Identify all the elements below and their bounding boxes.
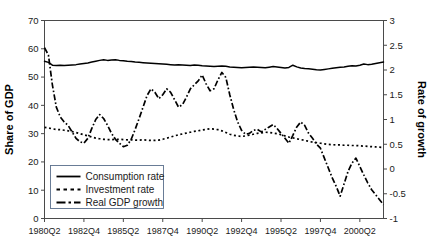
y-axis-tick-label: 30 xyxy=(28,128,39,139)
chart-container: 010203040506070-1-0.500.511.522.531980Q2… xyxy=(0,0,431,248)
y-axis-title: Share of GDP xyxy=(3,84,15,155)
x-axis-tick-label: 1995Q2 xyxy=(265,226,297,236)
x-axis-tick-label: 1982Q4 xyxy=(68,226,100,236)
y-axis-tick-label: 40 xyxy=(28,100,39,111)
legend-label-real-gdp-growth: Real GDP growth xyxy=(86,197,164,208)
y2-axis-tick-label: 0.5 xyxy=(390,139,403,150)
y2-axis-tick-label: 1 xyxy=(390,114,395,125)
y2-axis-tick-label: 1.5 xyxy=(390,89,403,100)
x-axis-tick-label: 2000Q2 xyxy=(344,226,376,236)
y2-axis-tick-label: 2.5 xyxy=(390,40,403,51)
series-line-investment-rate xyxy=(45,127,384,147)
x-axis-tick-label: 1997Q4 xyxy=(304,226,336,236)
y2-axis-tick-label: 0 xyxy=(390,163,395,174)
y2-axis-tick-label: -1 xyxy=(390,213,398,224)
y2-axis-tick-label: 2 xyxy=(390,64,395,75)
y2-axis-tick-label: 3 xyxy=(390,15,395,26)
y-axis-tick-label: 20 xyxy=(28,156,39,167)
series-line-consumption-rate xyxy=(45,60,384,70)
x-axis-tick-label: 1985Q2 xyxy=(107,226,139,236)
x-axis-tick-label: 1990Q2 xyxy=(186,226,218,236)
y-axis-tick-label: 10 xyxy=(28,185,39,196)
legend-label-consumption-rate: Consumption rate xyxy=(86,171,165,182)
y-axis-tick-label: 50 xyxy=(28,71,39,82)
y-axis-tick-label: 70 xyxy=(28,15,39,26)
gdp-share-growth-chart: 010203040506070-1-0.500.511.522.531980Q2… xyxy=(0,0,431,248)
x-axis-tick-label: 1992Q4 xyxy=(226,226,258,236)
y-axis-tick-label: 60 xyxy=(28,43,39,54)
y2-axis-tick-label: -0.5 xyxy=(390,188,406,199)
y-axis-tick-label: 0 xyxy=(33,213,38,224)
x-axis-tick-label: 1980Q2 xyxy=(28,226,60,236)
y2-axis-title: Rate of growth xyxy=(416,81,428,158)
legend-label-investment-rate: Investment rate xyxy=(86,184,155,195)
x-axis-tick-label: 1987Q4 xyxy=(147,226,179,236)
